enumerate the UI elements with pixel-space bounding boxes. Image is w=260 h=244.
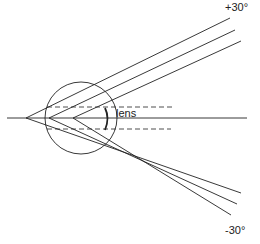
lens-label: lens xyxy=(116,107,137,119)
upper-ray-1 xyxy=(26,18,230,118)
upper-ray-3 xyxy=(73,41,241,118)
eye-field-of-view-diagram: lens +30° -30° xyxy=(0,0,260,244)
bottom-angle-label: -30° xyxy=(225,224,245,236)
upper-ray-2 xyxy=(49,30,235,118)
lower-ray-3 xyxy=(73,118,231,215)
lens-arc xyxy=(105,108,108,130)
top-angle-label: +30° xyxy=(225,1,248,13)
